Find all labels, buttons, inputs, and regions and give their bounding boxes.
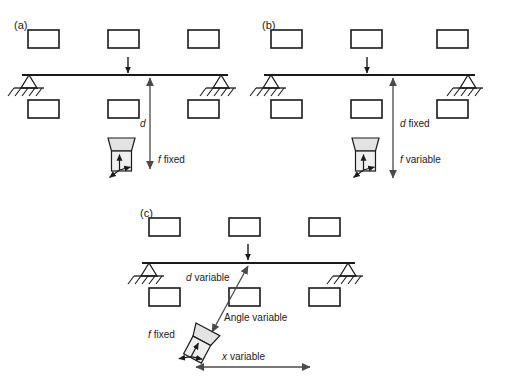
focus-symbol: f (158, 154, 162, 165)
support-left (250, 75, 286, 96)
block (309, 288, 340, 306)
distance-symbol: d (186, 272, 192, 283)
offset-label: xvariable (221, 351, 265, 362)
support-left (128, 263, 164, 284)
angle-label: Angle variable (224, 312, 288, 323)
distance-symbol: d (400, 118, 406, 129)
distance-word: fixed (409, 118, 430, 129)
distance-label: d (140, 118, 146, 129)
panel-c-label: (c) (140, 207, 153, 219)
block (309, 218, 340, 236)
block (108, 30, 139, 48)
panel-c-lower-blocks (149, 288, 340, 306)
block (28, 100, 59, 118)
support-left (8, 75, 44, 96)
focus-symbol: f (148, 329, 152, 340)
beam-configuration-diagram: (a) d ffixed (b) (0, 0, 510, 387)
panel-a: (a) d ffixed (8, 19, 236, 178)
figure-container: (a) d ffixed (b) (0, 0, 510, 387)
distance-word: variable (195, 272, 230, 283)
focus-word: fixed (164, 154, 185, 165)
block (351, 100, 382, 118)
block (188, 100, 219, 118)
offset-word: variable (230, 351, 265, 362)
panel-b-lower-blocks (271, 100, 468, 118)
panel-a-label: (a) (14, 19, 27, 31)
support-right (200, 75, 236, 96)
block (28, 30, 59, 48)
panel-a-upper-blocks (28, 30, 219, 48)
block (188, 30, 219, 48)
panel-a-lower-blocks (28, 100, 219, 118)
block (437, 30, 468, 48)
block (229, 288, 260, 306)
focus-symbol: f (400, 154, 404, 165)
offset-symbol: x (221, 351, 228, 362)
panel-b-upper-blocks (271, 30, 468, 48)
panel-b: (b) dfixed fvariable (250, 19, 483, 178)
block (149, 288, 180, 306)
panel-c: (c) dvariable Angle variable ffixed xvar… (128, 207, 363, 371)
block (271, 100, 302, 118)
support-right (327, 263, 363, 284)
focus-word: variable (406, 154, 441, 165)
focus-label: fvariable (400, 154, 441, 165)
block (351, 30, 382, 48)
distance-label: dfixed (400, 118, 430, 129)
panel-c-upper-blocks (149, 218, 340, 236)
focus-word: fixed (154, 329, 175, 340)
distance-label: dvariable (186, 272, 230, 283)
sensor-device (352, 138, 379, 178)
sensor-device (108, 138, 135, 178)
block (229, 218, 260, 236)
support-right (447, 75, 483, 96)
block (437, 100, 468, 118)
block (271, 30, 302, 48)
block (149, 218, 180, 236)
focus-label: ffixed (148, 329, 175, 340)
focus-label: ffixed (158, 154, 185, 165)
block (108, 100, 139, 118)
